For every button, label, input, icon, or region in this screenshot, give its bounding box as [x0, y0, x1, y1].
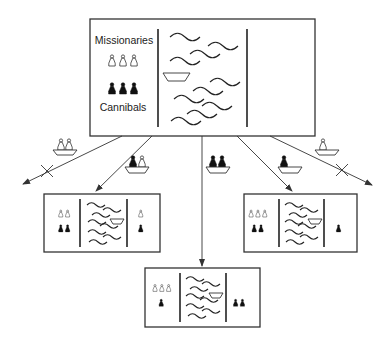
root-state-box: Missionaries Cannibals: [90, 19, 315, 136]
state-box-left: [44, 194, 160, 252]
missionaries-label: Missionaries: [95, 34, 153, 46]
boat-move-2c: [206, 156, 230, 173]
state-tree-diagram: Missionaries Cannibals: [0, 0, 392, 346]
invalid-x-mark-left: [41, 165, 53, 177]
boat-icon: [163, 73, 190, 81]
left-bank-missionaries: [109, 55, 137, 66]
boat-move-2m: [53, 139, 77, 155]
arrow-invalid-left: [23, 136, 122, 184]
boat-move-1m1c: [125, 156, 149, 173]
boat-move-1m: [315, 139, 339, 155]
cannibals-label: Cannibals: [100, 101, 147, 113]
left-bank-cannibals: [109, 83, 138, 94]
boat-move-1c: [278, 156, 302, 173]
state-box-right: [244, 194, 357, 252]
invalid-x-mark-right: [336, 164, 348, 176]
state-box-bottom: [145, 268, 260, 327]
